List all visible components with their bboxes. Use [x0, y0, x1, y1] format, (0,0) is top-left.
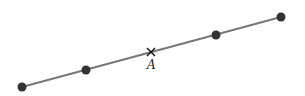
point-label-a: A	[146, 58, 156, 72]
point-dot-1	[18, 83, 27, 92]
point-dot-2	[82, 66, 91, 75]
point-dot-5	[277, 13, 286, 22]
number-line-diagram: A	[0, 0, 305, 96]
point-dot-4	[212, 31, 221, 40]
